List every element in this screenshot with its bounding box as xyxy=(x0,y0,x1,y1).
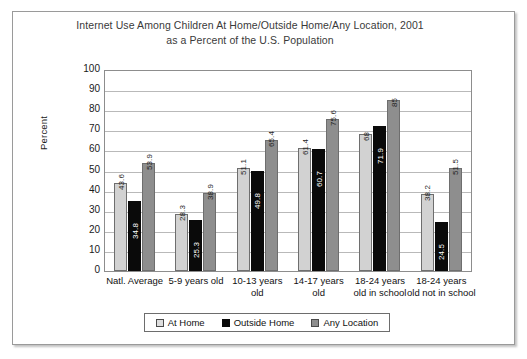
y-axis-tick-label: 50 xyxy=(60,164,100,175)
bar: 51.5 xyxy=(449,168,462,272)
bar: 34.8 xyxy=(128,201,141,271)
legend-item[interactable]: At Home xyxy=(156,317,205,328)
bar: 38.9 xyxy=(203,193,216,271)
bar-value-label: 24.5 xyxy=(437,244,446,260)
bar: 49.8 xyxy=(251,171,264,271)
x-axis-tick-label: 18-24 yearsold not in school xyxy=(403,275,480,298)
bars-layer: 43.634.853.928.325.338.951.149.865.461.4… xyxy=(104,70,472,271)
bar-value-label: 61.4 xyxy=(301,139,310,155)
bar-value-label: 38.9 xyxy=(206,184,215,200)
legend-label: Outside Home xyxy=(234,317,295,328)
bar-value-label: 60.7 xyxy=(315,171,324,187)
bar: 85 xyxy=(387,100,400,271)
bar: 71.9 xyxy=(373,126,386,271)
legend-label: Any Location xyxy=(323,317,378,328)
chart-title-line-1: Internet Use Among Children At Home/Outs… xyxy=(40,18,460,33)
bar: 43.6 xyxy=(114,183,127,271)
bar: 28.3 xyxy=(175,214,188,271)
y-axis-tick-label: 100 xyxy=(60,63,100,74)
y-axis-tick-label: 0 xyxy=(60,264,100,275)
y-axis-title: Percent xyxy=(38,116,49,150)
bar: 60.7 xyxy=(312,149,325,271)
y-axis-tick-label: 20 xyxy=(60,224,100,235)
bar: 38.2 xyxy=(421,194,434,271)
bar-value-label: 65.4 xyxy=(267,131,276,147)
bar: 24.5 xyxy=(435,222,448,271)
y-axis-tick-label: 80 xyxy=(60,103,100,114)
bar-value-label: 34.8 xyxy=(131,223,140,239)
y-axis-tick-labels: 1009080706050403020100 xyxy=(56,70,100,272)
bar-value-label: 51.5 xyxy=(451,159,460,175)
bar-group: 28.325.338.9 xyxy=(165,70,226,271)
bar-value-label: 51.1 xyxy=(239,159,248,175)
bar-group: 43.634.853.9 xyxy=(104,70,165,271)
bar-value-label: 53.9 xyxy=(145,154,154,170)
chart-legend: At HomeOutside HomeAny Location xyxy=(144,313,390,332)
bar-value-label: 43.6 xyxy=(117,174,126,190)
y-axis-tick-label: 30 xyxy=(60,204,100,215)
legend-item[interactable]: Outside Home xyxy=(222,317,295,328)
bar-value-label: 71.9 xyxy=(376,149,385,165)
chart-title-line-2: as a Percent of the U.S. Population xyxy=(40,33,460,48)
bar-group: 6871.985 xyxy=(349,70,410,271)
bar-group: 61.460.775.6 xyxy=(288,70,349,271)
y-axis-tick-label: 60 xyxy=(60,143,100,154)
bar-group: 38.224.551.5 xyxy=(411,70,472,271)
bar: 68 xyxy=(359,134,372,271)
bar-group: 51.149.865.4 xyxy=(227,70,288,271)
bar: 51.1 xyxy=(237,168,250,271)
x-axis-tick-labels: Natl. Average5-9 years old10-13 yearsold… xyxy=(104,275,472,303)
bar: 25.3 xyxy=(189,220,202,271)
x-axis-tick-label-line: 18-24 years xyxy=(403,275,480,287)
y-axis-tick-label: 90 xyxy=(60,83,100,94)
legend-label: At Home xyxy=(168,317,205,328)
bar-value-label: 68 xyxy=(362,132,371,141)
bar-value-label: 75.6 xyxy=(329,110,338,126)
bar-value-label: 49.8 xyxy=(253,193,262,209)
chart-title: Internet Use Among Children At Home/Outs… xyxy=(40,18,460,48)
bar-value-label: 28.3 xyxy=(178,205,187,221)
legend-item[interactable]: Any Location xyxy=(311,317,378,328)
y-axis-tick-label: 70 xyxy=(60,123,100,134)
legend-swatch-icon xyxy=(156,319,164,327)
bar: 61.4 xyxy=(298,148,311,271)
y-axis-tick-label: 40 xyxy=(60,184,100,195)
legend-swatch-icon xyxy=(311,319,319,327)
bar-value-label: 85 xyxy=(390,98,399,107)
bar: 65.4 xyxy=(265,140,278,271)
chart-screenshot: Internet Use Among Children At Home/Outs… xyxy=(0,0,527,359)
bar-value-label: 38.2 xyxy=(423,185,432,201)
bar: 53.9 xyxy=(142,163,155,271)
y-axis-tick-label: 10 xyxy=(60,244,100,255)
x-axis-tick-label-line: old not in school xyxy=(403,287,480,299)
bar: 75.6 xyxy=(326,119,339,271)
legend-swatch-icon xyxy=(222,319,230,327)
bar-value-label: 25.3 xyxy=(192,242,201,258)
